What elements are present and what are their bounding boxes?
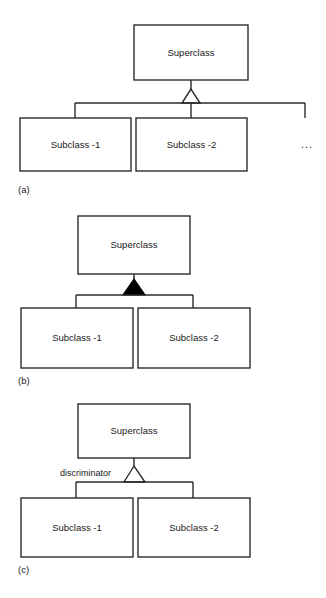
figure-c-generalization-triangle-icon: [124, 466, 145, 482]
figure-a-superclass-label: Superclass: [168, 47, 215, 58]
figure-b-generalization-triangle-icon: [123, 279, 145, 295]
figure-b: Superclass Subclass -1 Subclass -2 (b): [18, 216, 250, 386]
figure-c-subclass-2-label: Subclass -2: [169, 522, 219, 533]
figure-a-subclass-1-label: Subclass -1: [51, 139, 101, 150]
figure-a-subclass-2-label: Subclass -2: [167, 139, 217, 150]
figure-c-caption: (c): [18, 564, 29, 575]
figure-a-generalization-triangle-icon: [182, 89, 200, 103]
figure-c: Superclass discriminator Subclass -1 Sub…: [18, 404, 250, 575]
figure-a-caption: (a): [18, 184, 30, 195]
figure-c-superclass-label: Superclass: [111, 425, 158, 436]
figure-a-continuation-ellipsis: ...: [301, 138, 313, 150]
figure-b-caption: (b): [18, 375, 30, 386]
figure-b-subclass-1-label: Subclass -1: [52, 332, 102, 343]
uml-generalization-diagram: Superclass Subclass -1 Subclass -2 ... (…: [0, 0, 326, 598]
figure-b-subclass-2-label: Subclass -2: [169, 332, 219, 343]
diagram-canvas: Superclass Subclass -1 Subclass -2 ... (…: [0, 0, 326, 598]
figure-c-discriminator-label: discriminator: [60, 468, 111, 478]
figure-b-superclass-label: Superclass: [111, 239, 158, 250]
figure-a: Superclass Subclass -1 Subclass -2 ... (…: [18, 25, 313, 195]
figure-c-subclass-1-label: Subclass -1: [52, 522, 102, 533]
